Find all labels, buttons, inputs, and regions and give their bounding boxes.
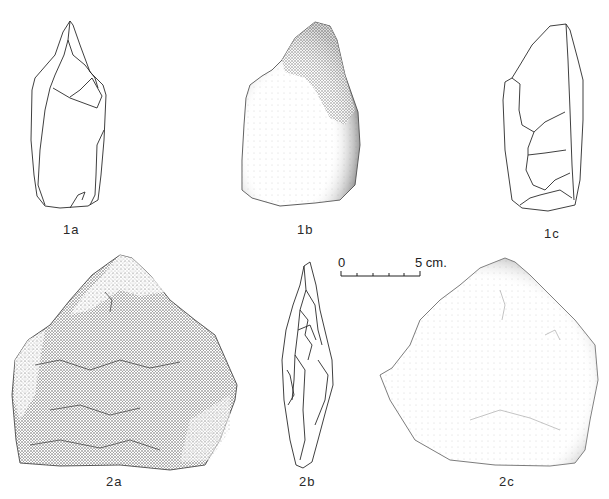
- figure-label-2a: 2a: [106, 474, 122, 489]
- figure-2c-drawing: [380, 258, 598, 466]
- figure-label-2b: 2b: [299, 474, 315, 489]
- scale-start-label: 0: [338, 255, 345, 270]
- figure-2a-drawing: [12, 255, 237, 470]
- figure-2b-drawing: [282, 262, 333, 468]
- figure-label-1c: 1c: [544, 226, 560, 241]
- scale-end-label: 5 cm.: [415, 255, 447, 270]
- figure-label-2c: 2c: [499, 474, 515, 489]
- figure-1b-drawing: [242, 22, 360, 206]
- figure-1c-drawing: [503, 24, 583, 211]
- figure-label-1b: 1b: [297, 222, 313, 237]
- scale-bar: 0 5 cm.: [338, 257, 428, 279]
- plate-drawing: [0, 0, 609, 499]
- figure-1a-drawing: [31, 21, 106, 208]
- figure-label-1a: 1a: [63, 222, 79, 237]
